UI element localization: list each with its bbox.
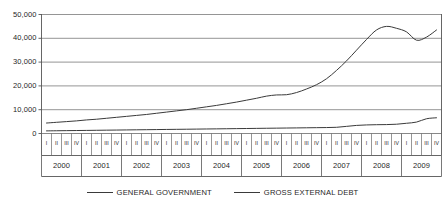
year-tick-label: 2002 (122, 161, 162, 170)
quarter-tick-label: II (172, 141, 182, 146)
y-tick-label: 0 (0, 129, 37, 138)
chart-legend: GENERAL GOVERNMENTGROSS EXTERNAL DEBT (0, 188, 445, 197)
legend-item: GROSS EXTERNAL DEBT (234, 188, 359, 197)
quarter-tick-label: IV (112, 141, 122, 146)
year-tick-label: 2001 (82, 161, 122, 170)
quarter-tick-label: II (412, 141, 422, 146)
quarter-tick-label: II (372, 141, 382, 146)
quarter-tick-label: III (342, 141, 352, 146)
series-line-1 (47, 118, 437, 131)
quarter-tick-label: III (382, 141, 392, 146)
legend-item-label: GROSS EXTERNAL DEBT (264, 188, 359, 197)
quarter-tick-label: I (282, 141, 292, 146)
quarter-tick-label: IV (312, 141, 322, 146)
quarter-tick-label: I (322, 141, 332, 146)
y-tick-label: 30,000 (0, 57, 37, 66)
legend-item-label: GENERAL GOVERNMENT (117, 188, 212, 197)
y-tick-label: 20,000 (0, 81, 37, 90)
plot-area (0, 0, 445, 211)
y-tick-label: 10,000 (0, 105, 37, 114)
y-tick-label: 40,000 (0, 33, 37, 42)
quarter-tick-label: III (62, 141, 72, 146)
quarter-tick-label: II (292, 141, 302, 146)
quarter-tick-label: I (42, 141, 52, 146)
quarter-tick-label: IV (232, 141, 242, 146)
quarter-tick-label: II (92, 141, 102, 146)
year-tick-label: 2008 (362, 161, 402, 170)
year-tick-label: 2009 (402, 161, 442, 170)
quarter-tick-label: IV (152, 141, 162, 146)
quarter-tick-label: III (302, 141, 312, 146)
quarter-tick-label: IV (352, 141, 362, 146)
quarter-tick-label: IV (432, 141, 442, 146)
quarter-tick-label: I (242, 141, 252, 146)
quarter-tick-label: III (222, 141, 232, 146)
year-tick-label: 2007 (322, 161, 362, 170)
quarter-tick-label: I (402, 141, 412, 146)
quarter-tick-label: II (52, 141, 62, 146)
quarter-tick-label: II (212, 141, 222, 146)
quarter-tick-label: III (182, 141, 192, 146)
quarter-tick-label: III (102, 141, 112, 146)
quarter-tick-label: I (122, 141, 132, 146)
quarter-tick-label: II (252, 141, 262, 146)
quarter-tick-label: I (362, 141, 372, 146)
quarter-tick-label: I (82, 141, 92, 146)
quarter-tick-label: I (202, 141, 212, 146)
y-tick-label: 50,000 (0, 10, 37, 19)
series-line-2 (47, 26, 437, 123)
year-tick-label: 2000 (42, 161, 82, 170)
year-tick-label: 2006 (282, 161, 322, 170)
year-tick-label: 2003 (162, 161, 202, 170)
quarter-tick-label: II (332, 141, 342, 146)
quarter-tick-label: II (132, 141, 142, 146)
legend-item: GENERAL GOVERNMENT (87, 188, 212, 197)
line-chart: 010,00020,00030,00040,00050,000 IIIIIIIV… (0, 0, 445, 211)
quarter-tick-label: IV (272, 141, 282, 146)
legend-line-swatch-icon (87, 192, 113, 193)
quarter-tick-label: III (422, 141, 432, 146)
year-tick-label: 2004 (202, 161, 242, 170)
quarter-tick-label: IV (392, 141, 402, 146)
year-tick-label: 2005 (242, 161, 282, 170)
legend-line-swatch-icon (234, 192, 260, 193)
quarter-tick-label: III (142, 141, 152, 146)
quarter-tick-label: IV (72, 141, 82, 146)
quarter-tick-label: I (162, 141, 172, 146)
quarter-tick-label: III (262, 141, 272, 146)
quarter-tick-label: IV (192, 141, 202, 146)
